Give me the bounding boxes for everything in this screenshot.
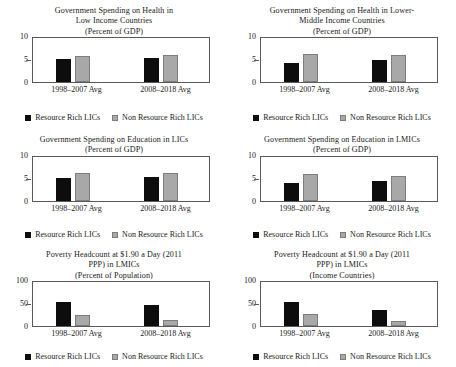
- bar: [284, 302, 299, 327]
- bar-container: [261, 38, 437, 82]
- chart-panel-health-lic: Government Spending on Health inLow Inco…: [0, 0, 228, 128]
- x-axis: 1998–2007 Avg2008–2018 Avg: [260, 85, 438, 95]
- bar-group: [121, 282, 209, 326]
- y-tick-label: 100: [244, 277, 256, 285]
- x-tick-label: 2008–2018 Avg: [121, 329, 210, 339]
- square-black-icon: [253, 354, 259, 360]
- bar: [163, 320, 178, 327]
- chart-title: Government Spending on Education in LICs…: [0, 128, 228, 156]
- square-gray-icon: [112, 232, 118, 238]
- legend-label: Non Resource Rich LICs: [122, 113, 203, 122]
- x-axis: 1998–2007 Avg2008–2018 Avg: [32, 204, 210, 214]
- square-black-icon: [25, 232, 31, 238]
- plot-frame: [32, 156, 210, 202]
- bar: [144, 177, 159, 201]
- y-tick-label: 10: [248, 152, 256, 160]
- square-black-icon: [25, 115, 31, 121]
- x-tick-label: 2008–2018 Avg: [349, 329, 438, 339]
- bar-group: [349, 157, 437, 201]
- legend-label: Non Resource Rich LICs: [350, 113, 431, 122]
- x-tick-label: 1998–2007 Avg: [260, 329, 349, 339]
- x-tick-label: 1998–2007 Avg: [32, 85, 121, 95]
- legend-item: Resource Rich LICs: [253, 113, 328, 122]
- bar: [391, 321, 406, 326]
- y-tick-label: 0: [24, 198, 28, 206]
- y-tick-label: 10: [20, 33, 28, 41]
- bar-group: [261, 38, 349, 82]
- chart-title-line: (Percent of GDP): [240, 27, 444, 37]
- square-black-icon: [25, 354, 31, 360]
- legend-label: Non Resource Rich LICs: [122, 230, 203, 239]
- y-axis: 0510: [228, 156, 260, 202]
- bar: [372, 60, 387, 82]
- chart-title: Poverty Headcount at $1.90 a Day (2011PP…: [228, 245, 456, 281]
- bar-container: [261, 282, 437, 326]
- bar-group: [261, 157, 349, 201]
- chart-title-line: (Percent of GDP): [12, 27, 216, 37]
- chart-title: Government Spending on Education in LMIC…: [228, 128, 456, 156]
- chart-title-line: (Income Countries): [240, 271, 444, 281]
- y-tick-mark: [254, 179, 259, 180]
- legend-item: Non Resource Rich LICs: [340, 113, 431, 122]
- bar: [56, 178, 71, 201]
- x-axis: 1998–2007 Avg2008–2018 Avg: [32, 329, 210, 339]
- legend-label: Non Resource Rich LICs: [350, 230, 431, 239]
- chart-panel-poverty-lmic-population: Poverty Headcount at $1.90 a Day (2011PP…: [0, 245, 228, 367]
- x-axis: 1998–2007 Avg2008–2018 Avg: [32, 85, 210, 95]
- bar-container: [33, 282, 209, 326]
- y-tick-label: 0: [24, 323, 28, 331]
- y-tick-label: 10: [248, 33, 256, 41]
- bar: [163, 173, 178, 201]
- bar-group: [33, 38, 121, 82]
- y-tick-mark: [26, 304, 31, 305]
- square-gray-icon: [340, 232, 346, 238]
- legend-item: Resource Rich LICs: [25, 230, 100, 239]
- legend-label: Resource Rich LICs: [35, 352, 100, 361]
- x-tick-label: 2008–2018 Avg: [121, 204, 210, 214]
- chart-title-line: Government Spending on Health in Lower-: [240, 6, 444, 16]
- legend-label: Resource Rich LICs: [35, 230, 100, 239]
- y-tick-mark: [26, 179, 31, 180]
- y-axis: 050100: [0, 281, 32, 327]
- legend-item: Non Resource Rich LICs: [340, 352, 431, 361]
- y-tick-label: 0: [252, 198, 256, 206]
- chart-grid: Government Spending on Health inLow Inco…: [0, 0, 456, 367]
- chart-panel-poverty-lmic-income: Poverty Headcount at $1.90 a Day (2011PP…: [228, 245, 456, 367]
- chart-panel-health-lmic: Government Spending on Health in Lower-M…: [228, 0, 456, 128]
- y-tick-mark: [254, 60, 259, 61]
- square-gray-icon: [112, 354, 118, 360]
- chart-title-line: Low Income Countries: [12, 16, 216, 26]
- y-tick-label: 0: [24, 79, 28, 87]
- chart-title-line: PPP) in LMICs: [12, 260, 216, 270]
- square-gray-icon: [112, 115, 118, 121]
- chart-legend: Resource Rich LICsNon Resource Rich LICs: [228, 113, 456, 122]
- bar-group: [33, 282, 121, 326]
- plot-frame: [260, 37, 438, 83]
- bar: [391, 176, 406, 201]
- legend-item: Resource Rich LICs: [253, 352, 328, 361]
- bar-container: [261, 157, 437, 201]
- y-tick-label: 0: [252, 79, 256, 87]
- chart-title: Poverty Headcount at $1.90 a Day (2011PP…: [0, 245, 228, 281]
- x-tick-label: 1998–2007 Avg: [32, 329, 121, 339]
- bar: [163, 55, 178, 82]
- chart-title-line: Government Spending on Health in: [12, 6, 216, 16]
- bar: [56, 302, 71, 327]
- bar-group: [261, 282, 349, 326]
- legend-item: Non Resource Rich LICs: [340, 230, 431, 239]
- x-tick-label: 2008–2018 Avg: [121, 85, 210, 95]
- chart-title-line: Government Spending on Education in LMIC…: [240, 135, 444, 145]
- x-axis: 1998–2007 Avg2008–2018 Avg: [260, 204, 438, 214]
- square-gray-icon: [340, 115, 346, 121]
- bar-container: [33, 38, 209, 82]
- chart-title-line: Middle Income Countries: [240, 16, 444, 26]
- bar: [75, 56, 90, 82]
- legend-label: Non Resource Rich LICs: [350, 352, 431, 361]
- chart-title-line: Poverty Headcount at $1.90 a Day (2011: [12, 250, 216, 260]
- bar: [144, 58, 159, 83]
- bar: [284, 183, 299, 201]
- bar: [303, 174, 318, 200]
- legend-item: Non Resource Rich LICs: [112, 113, 203, 122]
- chart-legend: Resource Rich LICsNon Resource Rich LICs: [0, 230, 228, 239]
- y-tick-mark: [26, 60, 31, 61]
